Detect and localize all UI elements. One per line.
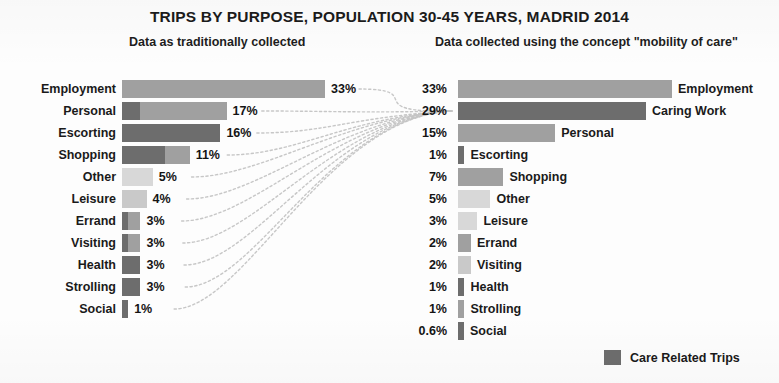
left-bar-row: Social1% xyxy=(0,298,340,320)
left-value-label: 33% xyxy=(331,78,356,100)
legend: Care Related Trips xyxy=(604,350,740,365)
right-bar-segment xyxy=(458,234,471,252)
left-bar xyxy=(122,124,220,142)
left-bar-total-segment xyxy=(122,168,153,186)
left-bar xyxy=(122,102,227,120)
right-bar xyxy=(458,80,672,98)
right-bar-row: 7%Shopping xyxy=(395,166,779,188)
left-category-label: Employment xyxy=(41,78,116,100)
left-category-label: Social xyxy=(79,298,116,320)
left-bar-care-segment xyxy=(122,124,220,142)
right-bar xyxy=(458,322,464,340)
left-bar xyxy=(122,278,140,296)
right-bar xyxy=(458,300,464,318)
left-bar-total-segment xyxy=(122,190,147,208)
chart-figure: TRIPS BY PURPOSE, POPULATION 30-45 YEARS… xyxy=(0,0,779,383)
left-category-label: Leisure xyxy=(72,188,116,210)
left-bar xyxy=(122,256,140,274)
right-category-label: Other xyxy=(496,188,529,210)
right-category-label: Escorting xyxy=(470,144,528,166)
left-bar xyxy=(122,234,140,252)
right-bar-segment xyxy=(458,300,464,318)
left-bar xyxy=(122,146,190,164)
left-bar xyxy=(122,300,128,318)
left-category-label: Visiting xyxy=(71,232,116,254)
right-bar-row: 2%Visiting xyxy=(395,254,779,276)
right-value-label: 5% xyxy=(395,188,447,210)
right-bar-segment xyxy=(458,278,464,296)
left-bar-care-segment xyxy=(122,278,140,296)
left-bar-row: Escorting16% xyxy=(0,122,340,144)
right-bar xyxy=(458,146,464,164)
right-category-label: Caring Work xyxy=(652,100,726,122)
left-category-label: Errand xyxy=(76,210,116,232)
left-category-label: Other xyxy=(83,166,116,188)
right-bar-row: 1%Escorting xyxy=(395,144,779,166)
right-bar-segment xyxy=(458,146,464,164)
right-bar-row: 29%Caring Work xyxy=(395,100,779,122)
right-value-label: 15% xyxy=(395,122,447,144)
right-bar xyxy=(458,124,555,142)
legend-swatch-care-icon xyxy=(604,350,621,365)
left-value-label: 16% xyxy=(226,122,251,144)
right-bar xyxy=(458,102,646,120)
right-bar-row: 2%Errand xyxy=(395,232,779,254)
left-value-label: 4% xyxy=(153,188,171,210)
left-bar xyxy=(122,168,153,186)
right-bar-segment xyxy=(458,80,672,98)
right-bar xyxy=(458,168,503,186)
right-bar xyxy=(458,278,464,296)
right-bar-row: 15%Personal xyxy=(395,122,779,144)
right-value-label: 2% xyxy=(395,254,447,276)
left-bar xyxy=(122,212,140,230)
left-bar-row: Strolling3% xyxy=(0,276,340,298)
left-bar-care-segment xyxy=(122,234,128,252)
right-value-label: 2% xyxy=(395,232,447,254)
left-bar xyxy=(122,190,147,208)
panel-mobility-of-care: 33%Employment29%Caring Work15%Personal1%… xyxy=(395,0,779,383)
right-category-label: Social xyxy=(470,320,507,342)
panel-traditional: Employment33%Personal17%Escorting16%Shop… xyxy=(0,0,340,383)
right-category-label: Employment xyxy=(678,78,753,100)
left-bar xyxy=(122,80,325,98)
right-value-label: 3% xyxy=(395,210,447,232)
right-value-label: 1% xyxy=(395,144,447,166)
right-category-label: Strolling xyxy=(470,298,521,320)
left-category-label: Health xyxy=(78,254,116,276)
left-bar-row: Other5% xyxy=(0,166,340,188)
right-category-label: Personal xyxy=(561,122,614,144)
left-category-label: Personal xyxy=(63,100,116,122)
right-bar xyxy=(458,256,471,274)
right-bar-segment xyxy=(458,322,464,340)
left-value-label: 3% xyxy=(146,232,164,254)
right-bar-care-segment xyxy=(458,102,646,120)
left-bar-row: Personal17% xyxy=(0,100,340,122)
left-bar-row: Leisure4% xyxy=(0,188,340,210)
left-category-label: Strolling xyxy=(65,276,116,298)
left-value-label: 11% xyxy=(196,144,220,166)
right-category-label: Errand xyxy=(477,232,517,254)
right-bar-segment xyxy=(458,256,471,274)
left-bar-total-segment xyxy=(122,80,325,98)
right-bar-row: 1%Strolling xyxy=(395,298,779,320)
right-bar xyxy=(458,190,490,208)
left-bar-row: Employment33% xyxy=(0,78,340,100)
left-bar-row: Health3% xyxy=(0,254,340,276)
left-value-label: 17% xyxy=(233,100,258,122)
right-category-label: Health xyxy=(470,276,508,298)
right-value-label: 1% xyxy=(395,298,447,320)
right-bar-row: 33%Employment xyxy=(395,78,779,100)
left-value-label: 3% xyxy=(146,254,164,276)
left-bar-row: Shopping11% xyxy=(0,144,340,166)
right-value-label: 7% xyxy=(395,166,447,188)
right-value-label: 33% xyxy=(395,78,447,100)
left-category-label: Shopping xyxy=(58,144,116,166)
left-category-label: Escorting xyxy=(58,122,116,144)
right-bar-row: 5%Other xyxy=(395,188,779,210)
right-value-label: 0.6% xyxy=(395,320,447,342)
right-value-label: 29% xyxy=(395,100,447,122)
right-bar-row: 0.6%Social xyxy=(395,320,779,342)
right-value-label: 1% xyxy=(395,276,447,298)
right-bar-segment xyxy=(458,190,490,208)
legend-label: Care Related Trips xyxy=(630,351,740,365)
